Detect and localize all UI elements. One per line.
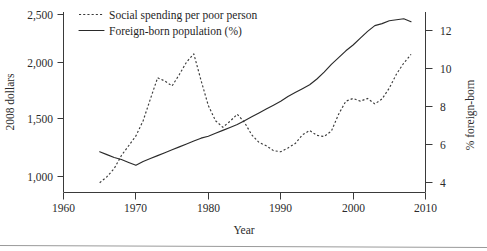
left-tick-label: 1,500 — [27, 113, 53, 126]
dual-axis-line-chart: 2,500 2,000 1,500 1,000 12 10 8 6 4 1960… — [0, 0, 487, 251]
footer-divider-rule — [0, 246, 487, 248]
right-tick-label: 8 — [440, 101, 446, 113]
series-group — [100, 19, 411, 183]
right-tick-label: 12 — [440, 25, 452, 37]
legend-label-social-spending: Social spending per poor person — [109, 9, 257, 22]
right-axis-ticks — [426, 31, 433, 183]
bottom-axis-ticks — [64, 193, 426, 200]
y-axis-title: 2008 dollars — [4, 73, 16, 131]
chart-legend: Social spending per poor person Foreign-… — [79, 9, 257, 38]
right-tick-label: 6 — [440, 139, 446, 151]
left-axis-ticks — [58, 15, 64, 177]
chart-figure: 2,500 2,000 1,500 1,000 12 10 8 6 4 1960… — [0, 0, 487, 251]
x-tick-label: 1990 — [269, 202, 292, 214]
left-tick-label: 2,000 — [27, 57, 53, 70]
x-tick-label: 2000 — [342, 202, 365, 214]
x-axis-tick-labels: 1960 1970 1980 1990 2000 2010 — [52, 202, 437, 214]
axes-group — [64, 12, 426, 193]
left-axis-tick-labels: 2,500 2,000 1,500 1,000 — [27, 9, 53, 184]
x-axis-title: Year — [233, 224, 254, 236]
series-social-spending-per-poor-person — [100, 54, 411, 183]
right-axis-tick-labels: 12 10 8 6 4 — [440, 25, 452, 189]
x-tick-label: 2010 — [414, 202, 437, 214]
legend-label-foreign-born: Foreign-born population (%) — [109, 25, 242, 38]
left-tick-label: 2,500 — [27, 9, 53, 22]
right-tick-label: 4 — [440, 177, 446, 189]
left-tick-label: 1,000 — [27, 171, 53, 184]
x-tick-label: 1970 — [124, 202, 147, 214]
series-foreign-born-population — [100, 19, 411, 166]
x-tick-label: 1980 — [197, 202, 220, 214]
x-tick-label: 1960 — [52, 202, 75, 214]
right-tick-label: 10 — [440, 63, 452, 75]
y2-axis-title: % foreign-born — [464, 79, 477, 150]
